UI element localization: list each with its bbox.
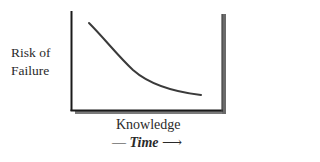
- time-arrow-label: — Time ⟶: [112, 134, 182, 151]
- time-arrow-icon: ⟶: [162, 135, 182, 150]
- time-label: Time: [130, 135, 159, 150]
- frame-right-shadow: [222, 14, 226, 114]
- time-dash: —: [112, 135, 126, 150]
- x-axis-label: Knowledge: [116, 117, 181, 133]
- risk-curve: [89, 23, 201, 95]
